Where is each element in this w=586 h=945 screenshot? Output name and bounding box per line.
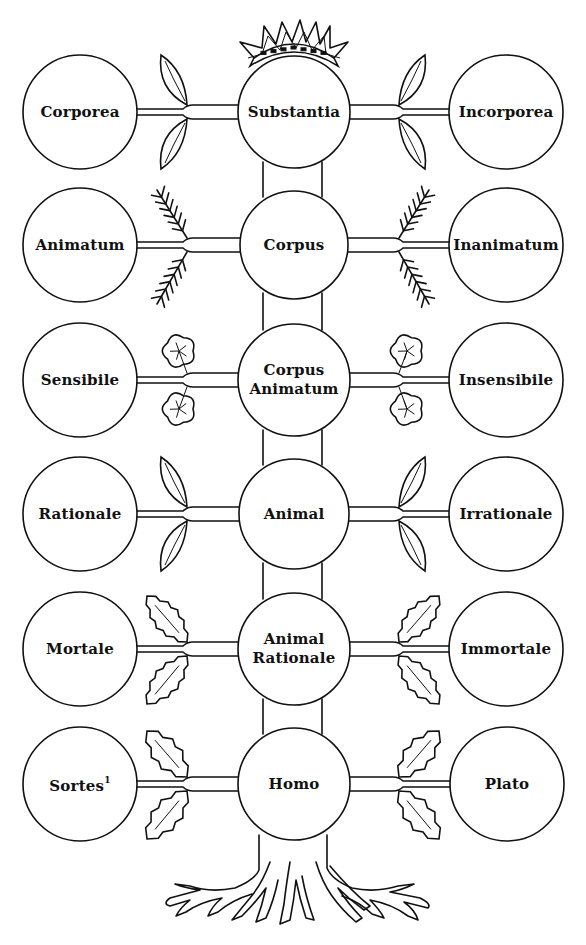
branch-right: [346, 238, 451, 252]
branch-left: [135, 105, 240, 119]
node-insensibile: Insensibile: [459, 371, 554, 390]
node-animal: Animal: [264, 505, 325, 524]
node-sortes: Sortes1: [49, 773, 110, 796]
node-irrationale: Irrationale: [459, 505, 552, 524]
node-animatum: Animatum: [35, 236, 124, 255]
branch-left: [135, 642, 240, 656]
branch-right: [348, 105, 451, 119]
node-animal-rationale: AnimalRationale: [253, 630, 336, 668]
node-corpus-animatum: CorpusAnimatum: [249, 361, 338, 399]
footnote-marker: 1: [104, 775, 110, 785]
branch-left: [135, 777, 240, 791]
roots-icon: [166, 835, 429, 924]
porphyrian-tree-diagram: Corporea Substantia Incorporea Animatum …: [0, 0, 586, 945]
node-immortale: Immortale: [461, 640, 551, 659]
branch-right: [348, 777, 452, 791]
branch-left: [135, 238, 242, 252]
node-rationale: Rationale: [39, 505, 122, 524]
node-mortale: Mortale: [46, 640, 114, 659]
node-corporea: Corporea: [40, 103, 119, 122]
node-inanimatum: Inanimatum: [453, 236, 559, 255]
node-corpus: Corpus: [264, 236, 325, 255]
branch-left: [135, 373, 240, 387]
branch-left: [135, 507, 241, 521]
node-sensibile: Sensibile: [41, 371, 120, 390]
branch-right: [348, 373, 451, 387]
branch-right: [348, 642, 451, 656]
node-homo: Homo: [269, 775, 320, 794]
node-incorporea: Incorporea: [459, 103, 554, 122]
node-substantia: Substantia: [248, 103, 341, 122]
branch-right: [347, 507, 451, 521]
node-plato: Plato: [485, 775, 530, 794]
tree-drawing: [0, 0, 586, 945]
